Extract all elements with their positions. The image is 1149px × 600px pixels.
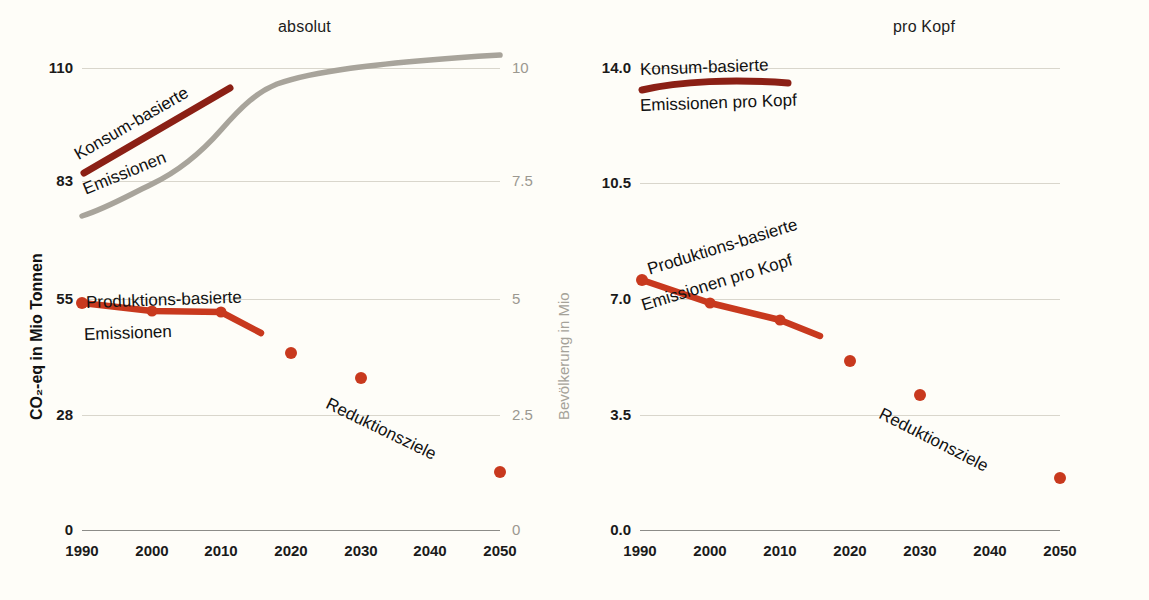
xtick-left-2050: 2050 [483, 542, 516, 559]
chart-panel-pro-kopf: pro Kopf 14.0 10.5 7.0 3.5 0.0 1990 2000… [580, 0, 1149, 600]
datapoint-target-right-2020 [844, 355, 856, 367]
ytick-right-7.0: 7.0 [610, 291, 631, 306]
datapoint-target-2020 [285, 347, 297, 359]
figure-root: absolut CO₂-eq in Mio Tonnen Bevölkerung… [0, 0, 1149, 600]
datapoint-target-right-2030 [914, 389, 926, 401]
ytick-right-10.5: 10.5 [602, 175, 631, 190]
datapoint-production-right-1990 [636, 274, 648, 286]
xtick-left-2040: 2040 [413, 542, 446, 559]
x-axis-line-left [82, 530, 500, 531]
annotation-production-line2-left: Emissionen [84, 322, 173, 345]
ytick-left-83: 83 [56, 173, 73, 188]
xtick-right-2000: 2000 [693, 542, 726, 559]
ytick-left-110: 110 [49, 60, 73, 75]
xtick-right-2020: 2020 [833, 542, 866, 559]
ytick-left-55: 55 [56, 291, 73, 306]
series-layer-pro-kopf [640, 68, 1060, 530]
y-axis-label-left-secondary: Bevölkerung in Mio [555, 292, 572, 420]
plot-area-absolut: 110 83 55 28 0 10 7.5 5 2.5 0 1990 2000 … [82, 68, 500, 530]
xtick-right-2010: 2010 [763, 542, 796, 559]
datapoint-target-2050 [494, 466, 506, 478]
plot-area-pro-kopf: 14.0 10.5 7.0 3.5 0.0 1990 2000 2010 202… [640, 68, 1060, 530]
x-axis-line-right [640, 530, 1060, 531]
xtick-left-2030: 2030 [344, 542, 377, 559]
ytick-right-14.0: 14.0 [602, 60, 631, 75]
y-axis-label-left-text: CO₂-eq in Mio Tonnen [28, 253, 45, 420]
xtick-left-2000: 2000 [135, 542, 168, 559]
chart-title-pro-kopf: pro Kopf [893, 18, 955, 36]
y-axis-label-left-secondary-text: Bevölkerung in Mio [555, 292, 572, 420]
xtick-left-2010: 2010 [204, 542, 237, 559]
ytick-left-28: 28 [56, 407, 73, 422]
ytick-left-0: 0 [65, 522, 73, 537]
ytick-right-3.5: 3.5 [610, 407, 631, 422]
y-axis-label-left: CO₂-eq in Mio Tonnen [28, 253, 46, 420]
datapoint-production-right-2000 [705, 298, 716, 309]
chart-panel-absolut: absolut CO₂-eq in Mio Tonnen Bevölkerung… [0, 0, 580, 600]
series-consumption-line-right [642, 81, 788, 90]
ytick-right-0.0: 0.0 [610, 522, 631, 537]
ytick-right-2.5: 2.5 [512, 407, 533, 422]
datapoint-target-2030 [355, 372, 367, 384]
xtick-right-1990: 1990 [623, 542, 656, 559]
xtick-left-2020: 2020 [274, 542, 307, 559]
ytick-right-0: 0 [512, 522, 520, 537]
ytick-right-5: 5 [512, 291, 520, 306]
xtick-right-2040: 2040 [973, 542, 1006, 559]
datapoint-production-right-2010 [775, 315, 786, 326]
ytick-right-10: 10 [512, 60, 529, 75]
chart-title-absolut: absolut [278, 18, 331, 36]
ytick-right-7.5: 7.5 [512, 173, 533, 188]
datapoint-target-right-2050 [1054, 472, 1066, 484]
xtick-left-1990: 1990 [65, 542, 98, 559]
xtick-right-2030: 2030 [903, 542, 936, 559]
xtick-right-2050: 2050 [1043, 542, 1076, 559]
